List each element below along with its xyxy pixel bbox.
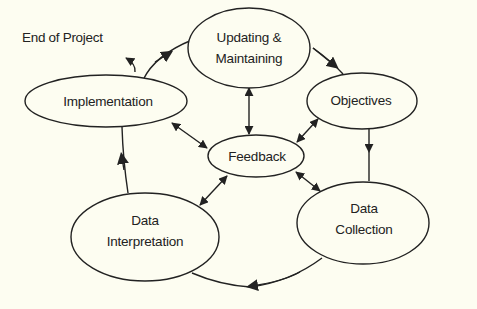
data-interpretation-label: Data Interpretation [107, 210, 184, 252]
label-line: Updating & [216, 27, 283, 48]
edge-implementation-to-updating [143, 40, 192, 80]
end-of-project-label: End of Project [22, 30, 103, 45]
arrowhead-icon [252, 272, 300, 286]
label-line: Feedback [228, 146, 286, 167]
label-line: Objectives [330, 90, 391, 111]
edge-feedback-interpretation [200, 176, 227, 205]
label-line: Interpretation [107, 231, 184, 252]
data-collection-label: Data Collection [335, 198, 392, 240]
updating-maintaining-label: Updating & Maintaining [216, 27, 283, 69]
feedback-label: Feedback [228, 146, 286, 167]
objectives-label: Objectives [330, 90, 391, 111]
edge-feedback-implementation [172, 123, 207, 148]
edge-implementation-to-end [126, 58, 135, 72]
arrowhead-icon [313, 48, 334, 65]
project-cycle-diagram: End of Project Updating & Maintaining Ob… [0, 0, 477, 309]
label-line: Collection [335, 219, 392, 240]
label-line: Data [335, 198, 392, 219]
arrowhead-icon [155, 54, 168, 62]
label-line: Implementation [63, 91, 153, 112]
edge-feedback-objectives [297, 119, 318, 142]
label-line: Data [107, 210, 184, 231]
implementation-label: Implementation [63, 91, 153, 112]
edge-collection-to-interpretation [192, 258, 322, 287]
edge-feedback-collection [296, 172, 320, 191]
label-line: Maintaining [216, 48, 283, 69]
